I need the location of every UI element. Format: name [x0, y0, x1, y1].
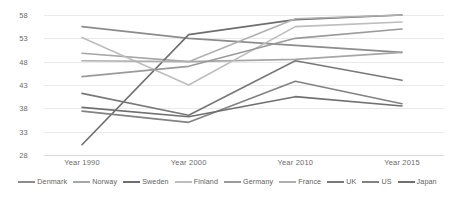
- y-axis: 58534843383328: [0, 0, 42, 170]
- chart-legend: DenmarkNorwaySwedenFinlandGermanyFranceU…: [0, 177, 455, 186]
- legend-swatch-icon: [175, 181, 192, 183]
- y-axis-tick-label: 48: [19, 57, 28, 66]
- legend-label: Denmark: [37, 177, 67, 186]
- series-line-germany: [82, 29, 402, 77]
- legend-label: Norway: [92, 177, 117, 186]
- legend-item-sweden[interactable]: Sweden: [120, 177, 172, 186]
- legend-item-norway[interactable]: Norway: [70, 177, 120, 186]
- legend-item-uk[interactable]: UK: [324, 177, 359, 186]
- y-axis-tick-label: 33: [19, 127, 28, 136]
- y-axis-tick-label: 38: [19, 104, 28, 113]
- legend-swatch-icon: [398, 181, 415, 183]
- x-axis-tick-label: Year 2010: [277, 158, 313, 167]
- y-axis-tick-label: 28: [19, 151, 28, 160]
- legend-item-germany[interactable]: Germany: [221, 177, 276, 186]
- legend-swatch-icon: [18, 181, 35, 183]
- legend-swatch-icon: [224, 181, 241, 183]
- y-axis-tick-label: 43: [19, 81, 28, 90]
- legend-label: US: [381, 177, 391, 186]
- series-line-norway: [82, 52, 402, 61]
- legend-label: France: [298, 177, 321, 186]
- x-axis-tick-label: Year 1990: [64, 158, 100, 167]
- legend-swatch-icon: [327, 181, 344, 183]
- legend-swatch-icon: [279, 181, 296, 183]
- legend-label: Japan: [417, 177, 437, 186]
- legend-item-finland[interactable]: Finland: [172, 177, 221, 186]
- series-container: [44, 15, 444, 155]
- series-line-sweden: [82, 15, 402, 145]
- legend-item-japan[interactable]: Japan: [395, 177, 440, 186]
- legend-item-us[interactable]: US: [359, 177, 394, 186]
- legend-label: UK: [346, 177, 356, 186]
- x-axis: Year 1990Year 2000Year 2010Year 2015: [44, 158, 444, 174]
- series-line-japan: [82, 97, 402, 117]
- y-axis-tick-label: 58: [19, 11, 28, 20]
- legend-label: Finland: [194, 177, 218, 186]
- legend-item-denmark[interactable]: Denmark: [15, 177, 70, 186]
- legend-swatch-icon: [73, 181, 90, 183]
- gridline-28: [44, 155, 444, 156]
- x-axis-tick-label: Year 2015: [384, 158, 420, 167]
- legend-label: Germany: [243, 177, 273, 186]
- y-axis-tick-label: 53: [19, 34, 28, 43]
- legend-item-france[interactable]: France: [276, 177, 324, 186]
- legend-swatch-icon: [123, 181, 140, 183]
- line-chart: 58534843383328 Year 1990Year 2000Year 20…: [0, 0, 455, 199]
- plot-area: [44, 15, 444, 155]
- legend-swatch-icon: [362, 181, 379, 183]
- legend-label: Sweden: [142, 177, 169, 186]
- series-line-france: [82, 15, 402, 62]
- x-axis-tick-label: Year 2000: [171, 158, 207, 167]
